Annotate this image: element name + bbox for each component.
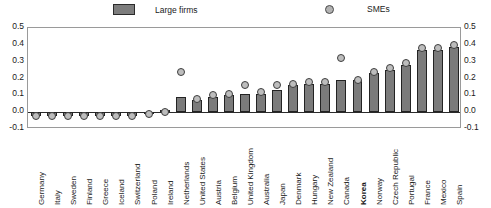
y-tick-label-right: -0.1	[464, 123, 488, 132]
marker-smes	[257, 88, 265, 96]
bar-large-firms	[240, 94, 250, 113]
x-axis-label: United States	[199, 157, 207, 205]
x-axis-label: France	[424, 180, 432, 205]
x-axis-label: Sweden	[70, 176, 78, 205]
x-axis-label: Iceland	[118, 179, 126, 205]
y-tick-label-right: 0.0	[464, 106, 488, 115]
marker-smes	[273, 81, 281, 89]
bar-large-firms	[433, 50, 443, 112]
bar-large-firms	[176, 97, 186, 112]
marker-smes	[161, 108, 169, 116]
bar-large-firms	[353, 80, 363, 112]
chart-figure: Large firms SMEs 0.50.40.30.20.10.0-0.1 …	[0, 0, 491, 208]
marker-smes	[80, 112, 88, 120]
x-axis-label: Mexico	[440, 180, 448, 205]
x-axis-label: United Kingdom	[247, 148, 255, 205]
zero-baseline	[28, 112, 460, 113]
y-tick-label-right: 0.1	[464, 89, 488, 98]
marker-smes	[64, 112, 72, 120]
x-axis-label: Hungary	[311, 175, 319, 205]
marker-smes	[193, 95, 201, 103]
x-axis-label: Austria	[215, 180, 223, 205]
x-axis-label: Spain	[456, 185, 464, 205]
x-axis-label: Korea	[360, 182, 368, 205]
plot-area	[27, 27, 461, 128]
marker-smes	[418, 44, 426, 52]
bar-large-firms	[336, 80, 346, 112]
x-axis-category-labels: GermanyItalySwedenFinlandGreeceIcelandSw…	[27, 129, 461, 208]
x-axis-label: Greece	[102, 179, 110, 205]
x-axis-label: Poland	[151, 180, 159, 205]
legend-marker-circle-icon	[325, 5, 334, 14]
y-tick-label-left: 0.1	[0, 89, 24, 98]
marker-smes	[354, 76, 362, 84]
marker-smes	[48, 112, 56, 120]
bar-large-firms	[272, 90, 282, 112]
x-axis-label: Denmark	[295, 173, 303, 205]
marker-smes	[177, 68, 185, 76]
bar-large-firms	[449, 47, 459, 113]
bar-large-firms	[369, 73, 379, 112]
legend-label-smes: SMEs	[367, 4, 390, 14]
x-axis-label: Norway	[376, 178, 384, 205]
x-axis-label: Netherlands	[183, 162, 191, 205]
bar-large-firms	[320, 84, 330, 113]
marker-smes	[128, 112, 136, 120]
y-tick-label-left: 0.5	[0, 22, 24, 31]
x-axis-label: Finland	[86, 179, 94, 205]
y-tick-label-right: 0.2	[464, 73, 488, 82]
marker-smes	[370, 68, 378, 76]
legend-item-large-firms: Large firms	[113, 4, 198, 15]
marker-smes	[145, 110, 153, 118]
marker-smes	[112, 112, 120, 120]
marker-smes	[32, 112, 40, 120]
y-tick-label-left: 0.4	[0, 39, 24, 48]
y-tick-label-right: 0.5	[464, 22, 488, 31]
bar-large-firms	[401, 65, 411, 112]
legend-label-large-firms: Large firms	[155, 5, 198, 15]
x-axis-label: Portugal	[408, 175, 416, 205]
x-axis-label: Belgium	[231, 176, 239, 205]
bar-large-firms	[208, 97, 218, 112]
y-tick-label-left: 0.0	[0, 106, 24, 115]
x-axis-label: Japan	[279, 183, 287, 205]
y-tick-label-left: 0.2	[0, 73, 24, 82]
legend-swatch-icon	[113, 4, 135, 15]
y-tick-label-left: 0.3	[0, 56, 24, 65]
marker-smes	[289, 80, 297, 88]
x-axis-label: New Zealand	[327, 158, 335, 205]
bar-large-firms	[288, 85, 298, 112]
marker-smes	[96, 112, 104, 120]
bar-large-firms	[385, 70, 395, 112]
y-tick-label-right: 0.3	[464, 56, 488, 65]
bar-large-firms	[417, 50, 427, 112]
marker-smes	[241, 81, 249, 89]
x-axis-label: Switzerland	[134, 164, 142, 205]
x-axis-label: Germany	[38, 172, 46, 205]
bar-large-firms	[304, 84, 314, 113]
marker-smes	[337, 54, 345, 62]
bar-large-firms	[256, 94, 266, 113]
y-tick-label-left: -0.1	[0, 123, 24, 132]
chart-legend: Large firms SMEs	[0, 2, 491, 22]
x-axis-label: Ireland	[167, 181, 175, 205]
x-axis-label: Canada	[343, 177, 351, 205]
bar-large-firms	[224, 95, 234, 112]
marker-smes	[225, 90, 233, 98]
y-tick-label-right: 0.4	[464, 39, 488, 48]
legend-item-smes: SMEs	[325, 4, 390, 14]
x-axis-label: Czech Republic	[392, 149, 400, 205]
marker-smes	[450, 41, 458, 49]
x-axis-label: Italy	[54, 190, 62, 205]
x-axis-label: Australia	[263, 174, 271, 205]
